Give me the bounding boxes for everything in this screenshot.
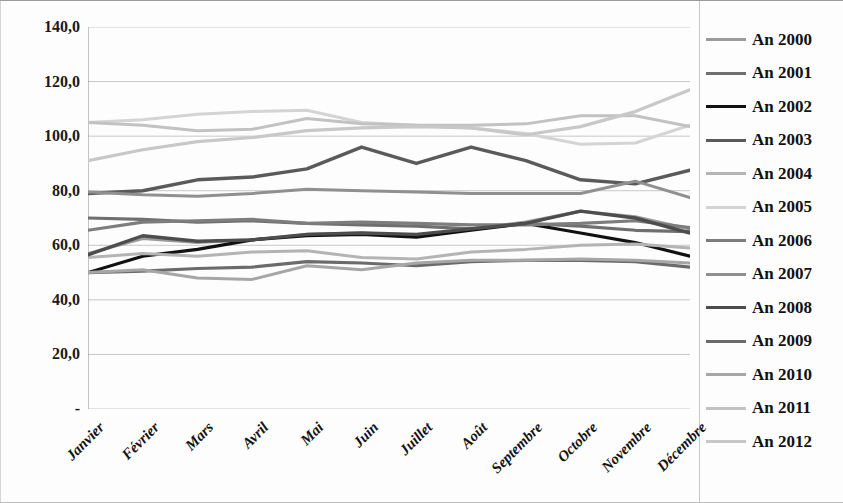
legend-item-an-2002[interactable]: An 2002 — [706, 90, 841, 124]
plot-area — [88, 27, 690, 409]
legend-line-swatch — [706, 105, 746, 108]
legend-line-swatch — [706, 340, 746, 343]
legend-item-an-2003[interactable]: An 2003 — [706, 124, 841, 158]
legend-line-swatch — [706, 139, 746, 142]
legend-line-swatch — [706, 206, 746, 209]
y-tick-label: 100,0 — [8, 127, 80, 145]
x-tick-label: Mai — [297, 419, 327, 449]
x-axis: JanvierFévrierMarsAvrilMaiJuinJuilletAoû… — [88, 409, 690, 503]
x-tick-label-text: Octobre — [554, 419, 601, 466]
legend-item-an-2011[interactable]: An 2011 — [706, 392, 841, 426]
x-tick-label-text: Juillet — [397, 419, 437, 459]
y-axis: -20,040,060,080,0100,0120,0140,0 — [0, 1, 80, 503]
legend-line-swatch — [706, 273, 746, 276]
legend-item-an-2007[interactable]: An 2007 — [706, 258, 841, 292]
legend-label: An 2001 — [752, 63, 812, 83]
legend-item-an-2012[interactable]: An 2012 — [706, 425, 841, 459]
legend-item-an-2009[interactable]: An 2009 — [706, 325, 841, 359]
legend-item-an-2001[interactable]: An 2001 — [706, 57, 841, 91]
line-chart: -20,040,060,080,0100,0120,0140,0 Janvier… — [0, 1, 843, 503]
series-line-an-2008 — [88, 211, 690, 255]
x-tick-label: Mars — [182, 419, 217, 454]
legend-item-an-2006[interactable]: An 2006 — [706, 224, 841, 258]
plot-svg — [88, 27, 690, 409]
series-lines — [88, 90, 690, 280]
x-tick-label-text: Mars — [182, 419, 217, 454]
x-tick-label-text: Juin — [350, 419, 382, 451]
x-tick-label-text: Février — [118, 419, 162, 463]
legend-label: An 2007 — [752, 264, 812, 284]
y-tick-label: 20,0 — [8, 345, 80, 363]
x-tick-label-text: Novembre — [598, 419, 655, 476]
legend-label: An 2008 — [752, 298, 812, 318]
x-tick-label-text: Mai — [297, 419, 327, 449]
legend-item-an-2008[interactable]: An 2008 — [706, 291, 841, 325]
legend-line-swatch — [706, 306, 746, 309]
x-tick-label: Avril — [239, 419, 272, 452]
x-tick-label: Juin — [350, 419, 382, 451]
legend-label: An 2010 — [752, 365, 812, 385]
legend-line-swatch — [706, 407, 746, 410]
x-tick-label: Août — [458, 419, 491, 452]
legend-item-an-2000[interactable]: An 2000 — [706, 23, 841, 57]
y-tick-label: 40,0 — [8, 291, 80, 309]
gridlines — [88, 27, 690, 409]
y-tick-label: - — [8, 400, 80, 418]
legend-line-swatch — [706, 72, 746, 75]
x-tick-label-text: Août — [458, 419, 491, 452]
legend-item-an-2004[interactable]: An 2004 — [706, 157, 841, 191]
legend-label: An 2012 — [752, 432, 812, 452]
y-tick-label: 80,0 — [8, 182, 80, 200]
legend-line-swatch — [706, 373, 746, 376]
x-tick-label-text: Décembre — [654, 419, 710, 475]
x-tick-label: Novembre — [598, 419, 655, 476]
legend-line-swatch — [706, 38, 746, 41]
legend-label: An 2005 — [752, 197, 812, 217]
legend-item-an-2010[interactable]: An 2010 — [706, 358, 841, 392]
x-tick-label: Septembre — [488, 419, 546, 477]
legend-line-swatch — [706, 172, 746, 175]
legend-label: An 2000 — [752, 30, 812, 50]
chart-page: -20,040,060,080,0100,0120,0140,0 Janvier… — [0, 0, 843, 503]
legend-label: An 2009 — [752, 331, 812, 351]
legend-label: An 2003 — [752, 130, 812, 150]
legend-line-swatch — [706, 440, 746, 443]
legend-label: An 2002 — [752, 97, 812, 117]
legend-label: An 2011 — [752, 398, 811, 418]
y-tick-label: 60,0 — [8, 236, 80, 254]
x-tick-label: Février — [118, 419, 162, 463]
chart-legend: An 2000An 2001An 2002An 2003An 2004An 20… — [706, 23, 841, 459]
legend-label: An 2006 — [752, 231, 812, 251]
x-tick-label: Octobre — [554, 419, 601, 466]
legend-item-an-2005[interactable]: An 2005 — [706, 191, 841, 225]
x-tick-label-text: Septembre — [488, 419, 546, 477]
legend-line-swatch — [706, 239, 746, 242]
legend-label: An 2004 — [752, 164, 812, 184]
y-tick-label: 140,0 — [8, 18, 80, 36]
series-line-an-2003 — [88, 147, 690, 193]
y-tick-label: 120,0 — [8, 73, 80, 91]
x-tick-label: Décembre — [654, 419, 710, 475]
x-tick-label-text: Avril — [239, 419, 272, 452]
x-tick-label: Juillet — [397, 419, 437, 459]
